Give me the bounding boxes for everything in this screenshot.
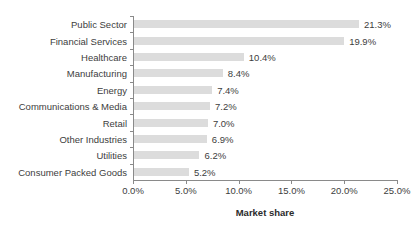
bar-value-label: 5.2%	[194, 166, 216, 177]
category-label: Retail	[103, 117, 127, 128]
bar	[134, 151, 199, 159]
bar-row: Other Industries6.9%	[133, 131, 397, 147]
y-axis-tick	[130, 98, 133, 99]
y-axis-tick	[130, 32, 133, 33]
x-axis-tick	[291, 180, 292, 184]
category-label: Consumer Packed Goods	[18, 166, 127, 177]
bar	[134, 168, 189, 176]
bar-row: Consumer Packed Goods5.2%	[133, 164, 397, 180]
bar	[134, 119, 208, 127]
bar-value-label: 6.9%	[212, 133, 234, 144]
y-axis-tick	[130, 65, 133, 66]
x-axis-tick-label: 5.0%	[175, 185, 197, 196]
bar	[134, 102, 210, 110]
category-label: Energy	[97, 84, 127, 95]
bar	[134, 86, 212, 94]
bar-value-label: 6.2%	[204, 150, 226, 161]
x-axis-tick	[186, 180, 187, 184]
bar-row: Manufacturing8.4%	[133, 65, 397, 81]
bar-row: Utilities6.2%	[133, 147, 397, 163]
category-label: Manufacturing	[67, 68, 127, 79]
bar-row: Energy7.4%	[133, 82, 397, 98]
bar	[134, 135, 207, 143]
bar-value-label: 19.9%	[349, 35, 376, 46]
x-axis-tick-label: 10.0%	[225, 185, 252, 196]
bar-value-label: 8.4%	[228, 68, 250, 79]
bar	[134, 69, 223, 77]
x-axis-title: Market share	[133, 207, 397, 218]
bar	[134, 20, 359, 28]
x-axis-tick-label: 15.0%	[278, 185, 305, 196]
category-label: Financial Services	[50, 35, 127, 46]
category-label: Public Sector	[71, 19, 127, 30]
plot-area: Public Sector21.3%Financial Services19.9…	[133, 16, 397, 180]
bar-value-label: 21.3%	[364, 19, 391, 30]
category-label: Communications & Media	[19, 101, 127, 112]
bar-row: Financial Services19.9%	[133, 32, 397, 48]
x-axis-tick-label: 0.0%	[122, 185, 144, 196]
y-axis-tick	[130, 131, 133, 132]
y-axis-tick	[130, 147, 133, 148]
y-axis-tick	[130, 82, 133, 83]
x-axis-tick	[239, 180, 240, 184]
x-axis-tick	[344, 180, 345, 184]
bar	[134, 37, 344, 45]
category-label: Healthcare	[81, 51, 127, 62]
bar-value-label: 7.2%	[215, 101, 237, 112]
y-axis-tick	[130, 164, 133, 165]
bar-row: Communications & Media7.2%	[133, 98, 397, 114]
category-label: Utilities	[96, 150, 127, 161]
bar	[134, 53, 244, 61]
y-axis-tick	[130, 16, 133, 17]
y-axis-tick	[130, 49, 133, 50]
x-axis-tick	[397, 180, 398, 184]
bar-value-label: 10.4%	[249, 51, 276, 62]
category-label: Other Industries	[59, 133, 127, 144]
bar-value-label: 7.0%	[213, 117, 235, 128]
bar-chart: Public Sector21.3%Financial Services19.9…	[0, 0, 418, 230]
x-axis-tick-label: 20.0%	[331, 185, 358, 196]
x-axis-tick	[133, 180, 134, 184]
y-axis-tick	[130, 114, 133, 115]
bar-value-label: 7.4%	[217, 84, 239, 95]
x-axis-line	[133, 180, 397, 181]
bar-row: Healthcare10.4%	[133, 49, 397, 65]
x-axis-tick-label: 25.0%	[384, 185, 411, 196]
bar-row: Retail7.0%	[133, 114, 397, 130]
bar-row: Public Sector21.3%	[133, 16, 397, 32]
